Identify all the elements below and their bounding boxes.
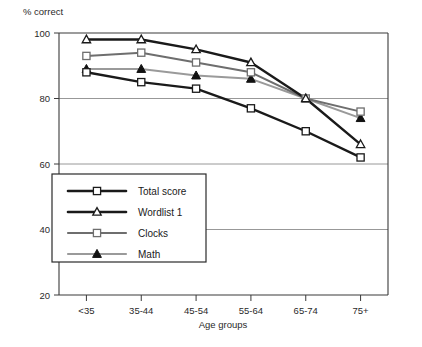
x-axis-title: Age groups [199, 319, 248, 330]
x-tick-label: 55-64 [239, 305, 263, 316]
data-point-marker [192, 59, 199, 66]
x-tick-label: <35 [78, 305, 94, 316]
y-tick-label: 100 [34, 28, 50, 39]
data-point-marker [138, 79, 145, 86]
data-point-marker [83, 52, 90, 59]
y-tick-label: 80 [39, 93, 50, 104]
data-point-marker [192, 85, 199, 92]
data-point-marker [247, 69, 254, 76]
data-point-marker [247, 105, 254, 112]
data-point-marker [83, 69, 90, 76]
data-point-marker [357, 108, 364, 115]
data-point-marker [302, 128, 309, 135]
y-tick-label: 60 [39, 159, 50, 170]
data-point-marker [357, 154, 364, 161]
legend-label: Total score [138, 186, 187, 197]
x-tick-label: 65-74 [294, 305, 318, 316]
legend-marker-icon [93, 229, 100, 236]
legend-label: Clocks [138, 228, 168, 239]
y-axis-title: % correct [23, 6, 63, 17]
x-tick-label: 35-44 [129, 305, 153, 316]
legend-label: Wordlist 1 [138, 207, 183, 218]
line-chart: % correct 20406080100 <3535-4445-5455-64… [0, 0, 422, 347]
chart-container: % correct 20406080100 <3535-4445-5455-64… [0, 0, 422, 347]
data-point-marker [138, 49, 145, 56]
y-tick-label: 40 [39, 224, 50, 235]
x-tick-label: 75+ [353, 305, 370, 316]
legend-label: Math [138, 249, 160, 260]
y-tick-label: 20 [39, 290, 50, 301]
x-tick-label: 45-54 [184, 305, 208, 316]
legend-marker-icon [93, 187, 100, 194]
legend: Total scoreWordlist 1ClocksMath [52, 174, 206, 262]
